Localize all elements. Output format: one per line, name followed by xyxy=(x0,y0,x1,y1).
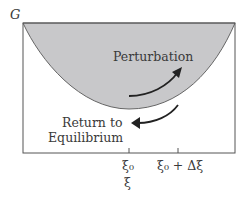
tick2-label: ξ₀ + Δξ xyxy=(157,160,203,173)
return-label-line1: Return to xyxy=(62,117,122,130)
tick1-label: ξ₀ xyxy=(122,160,134,173)
y-axis-label: G xyxy=(10,8,20,21)
x-axis-label: ξ xyxy=(124,177,131,190)
perturbation-label: Perturbation xyxy=(113,51,193,64)
return-label-line2: Equilibrium xyxy=(48,132,123,145)
